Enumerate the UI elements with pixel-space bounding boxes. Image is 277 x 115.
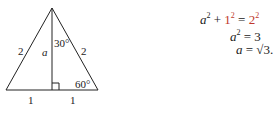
exponent: 2 [231, 11, 235, 20]
equals-sign: = [246, 42, 253, 57]
right-angle-marker [52, 83, 59, 90]
exponent: 2 [207, 11, 211, 20]
base-right-label: 1 [70, 94, 76, 106]
base-left-label: 1 [28, 94, 34, 106]
rhs-sqrt3: √3. [256, 42, 273, 57]
exponent: 2 [237, 28, 241, 37]
equations: a2 + 12 = 22 a2 = 3 a = √3. [200, 7, 275, 58]
right-side-label: 2 [81, 45, 87, 57]
altitude-label: a [42, 46, 48, 58]
bottom-angle-label: 60° [75, 78, 90, 90]
triangle-diagram: 2 2 a 30° 60° 1 1 [0, 0, 140, 115]
equation-line-1: a2 + 12 = 22 [200, 7, 275, 24]
exponent: 2 [255, 11, 259, 20]
top-angle-label: 30° [54, 37, 69, 49]
equation-line-2: a2 = 3 [200, 24, 275, 41]
var-a: a [236, 42, 243, 57]
equation-line-3: a = √3. [200, 41, 275, 58]
left-side-label: 2 [18, 45, 24, 57]
